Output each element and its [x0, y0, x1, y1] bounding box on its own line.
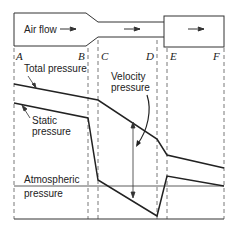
airflow-label: Air flow — [24, 24, 58, 35]
section-letters: A B C D E F — [15, 50, 220, 62]
pressure-diagram: Air flow A B C D E F Total pressure Stat… — [0, 0, 248, 229]
svg-text:B: B — [78, 50, 85, 62]
static-pressure-label-2: pressure — [32, 126, 71, 137]
static-pressure-pointer-icon — [22, 105, 30, 118]
velocity-pressure-pointer-icon — [137, 95, 149, 145]
atmospheric-label-1: Atmospheric — [24, 174, 80, 185]
atmospheric-label-2: pressure — [24, 188, 63, 199]
svg-text:C: C — [101, 50, 109, 62]
static-pressure-label-1: Static — [32, 115, 57, 126]
svg-text:F: F — [212, 50, 220, 62]
velocity-span-arrow-icon — [131, 122, 135, 198]
flow-arrow-icons — [60, 27, 204, 31]
svg-text:D: D — [145, 50, 154, 62]
velocity-pressure-label-1: Velocity — [111, 71, 145, 82]
velocity-pressure-label-2: pressure — [111, 82, 150, 93]
total-pressure-label: Total pressure — [24, 63, 87, 74]
svg-text:E: E — [169, 50, 177, 62]
svg-text:A: A — [15, 50, 23, 62]
